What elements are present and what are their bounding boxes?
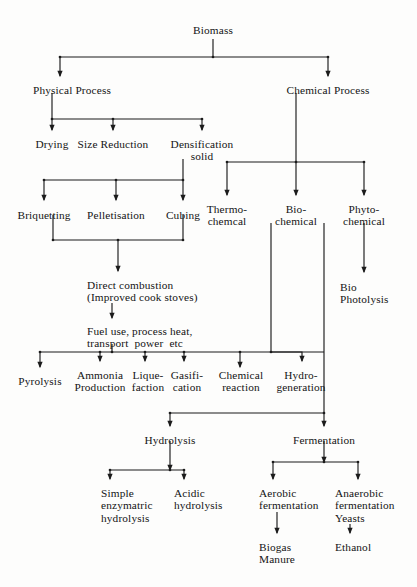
arrowhead-e-to-briquetting <box>41 195 46 201</box>
node-densification: Densification solid <box>171 138 234 163</box>
node-briquetting: Briquetting <box>17 209 70 221</box>
node-aerobic: Aerobic fermentation <box>259 487 319 512</box>
arrowhead-e-to-cubing <box>180 195 185 201</box>
arrowhead-e-to-chem-reaction <box>237 362 242 368</box>
node-thermochemical: Thermo- chemcal <box>207 203 248 228</box>
arrowhead-e-to-densification <box>199 125 204 131</box>
arrowhead-e-to-phytochemical <box>361 190 366 196</box>
junction-dot <box>43 179 46 182</box>
arrowhead-e-to-hydrolysis <box>167 421 172 427</box>
arrowhead-e-to-aerobic <box>270 474 275 480</box>
arrowhead-e-to-pyrolysis <box>37 362 42 368</box>
junction-dot <box>182 179 185 182</box>
node-fermentation: Fermentation <box>293 434 355 446</box>
junction-dot <box>270 351 273 354</box>
arrowhead-e-to-chemical <box>325 71 330 77</box>
junction-dot <box>169 412 172 415</box>
node-hydrogeneration: Hydro- generation <box>276 369 325 394</box>
junction-dot <box>323 412 326 415</box>
arrowhead-e-to-drying <box>49 125 54 131</box>
flowchart-root: BiomassPhysical ProcessChemical ProcessD… <box>0 0 417 587</box>
arrowhead-e-to-physical <box>57 71 62 77</box>
junction-dot <box>99 351 102 354</box>
junction-dot <box>327 56 330 59</box>
arrowhead-e-hydrogen-elbow <box>299 356 304 362</box>
junction-dot <box>295 161 298 164</box>
junction-dot <box>183 469 186 472</box>
arrowhead-e-to-gasification <box>181 356 186 362</box>
node-cubing: Cubing <box>166 209 200 221</box>
junction-dot <box>212 56 215 59</box>
arrowhead-e-to-anaerobic <box>355 474 360 480</box>
junction-dot <box>323 461 326 464</box>
node-liquefaction: Lique- faction <box>132 369 164 394</box>
arrowhead-e-to-pelletisation <box>113 195 118 201</box>
arrowhead-e-to-fermentation <box>321 421 326 427</box>
junction-dot <box>39 351 42 354</box>
node-pyrolysis: Pyrolysis <box>18 375 61 387</box>
node-hydrolysis: Hydrolysis <box>144 434 195 446</box>
arrowhead-e-anaerobic-to-ethanol <box>347 528 352 534</box>
arrowhead-e-to-liquefaction <box>142 356 147 362</box>
node-ethanol: Ethanol <box>335 541 371 553</box>
arrowhead-e-to-thermochemical <box>224 190 229 196</box>
arrowhead-e-to-simple-enzym <box>107 474 112 480</box>
junction-dot <box>117 239 120 242</box>
junction-dot <box>52 239 55 242</box>
node-size-reduction: Size Reduction <box>78 138 149 150</box>
junction-dot <box>239 351 242 354</box>
arrowhead-e-to-ammonia <box>97 356 102 362</box>
node-chem-reaction: Chemical reaction <box>219 369 264 394</box>
arrowhead-e-phyto-to-biophot <box>361 267 366 273</box>
node-direct-comb: Direct combustion (Improved cook stoves) <box>87 279 198 304</box>
node-simple-enzym: Simple enzymatric hydrolysis <box>101 487 153 524</box>
node-pelletisation: Pelletisation <box>87 209 145 221</box>
arrowhead-e-to-biochemical <box>293 190 298 196</box>
node-biochemical: Bio- chemical <box>275 203 317 228</box>
junction-dot <box>115 179 118 182</box>
arrowhead-e-to-size-reduction <box>110 125 115 131</box>
node-biomass: Biomass <box>193 24 233 36</box>
junction-dot <box>201 118 204 121</box>
node-acidic-hydro: Acidic hydrolysis <box>174 487 223 512</box>
junction-dot <box>59 56 62 59</box>
junction-dot <box>183 351 186 354</box>
node-chemical: Chemical Process <box>286 84 369 96</box>
node-physical: Physical Process <box>33 84 111 96</box>
junction-dot <box>363 161 366 164</box>
arrowhead-e-comb-to-fuel <box>109 313 114 319</box>
node-biophotolysis: Bio Photolysis <box>340 281 389 306</box>
junction-dot <box>182 239 185 242</box>
junction-dot <box>169 469 172 472</box>
junction-dot <box>112 118 115 121</box>
junction-dot <box>272 461 275 464</box>
node-ammonia: Ammonia Production <box>74 369 125 394</box>
node-drying: Drying <box>36 138 69 150</box>
node-biogas: Biogas Manure <box>259 541 295 566</box>
arrowhead-e-aerobic-to-biogas <box>274 528 279 534</box>
junction-dot <box>109 469 112 472</box>
node-gasification: Gasifi- cation <box>171 369 203 394</box>
node-fuel-use: Fuel use, process heat, transport power … <box>87 325 192 350</box>
connector-e-hydrogen-elbow <box>271 352 302 361</box>
junction-dot <box>111 351 114 354</box>
node-phytochemical: Phyto- chemical <box>343 203 385 228</box>
junction-dot <box>357 461 360 464</box>
junction-dot <box>144 351 147 354</box>
junction-dot <box>51 118 54 121</box>
node-anaerobic: Anaerobic fermentation Yeasts <box>335 487 395 524</box>
arrowhead-e-merge1-stem <box>115 266 120 272</box>
arrowhead-e-to-acidic-hydro <box>181 474 186 480</box>
